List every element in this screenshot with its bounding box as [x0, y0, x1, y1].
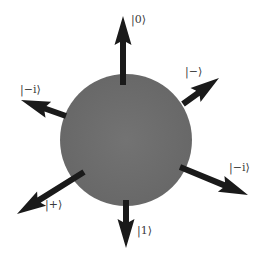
sphere-circle	[60, 74, 192, 206]
label-ket-plus: |+⟩	[45, 199, 62, 210]
label-ket-zero: |0⟩	[131, 14, 146, 25]
arrow-minus-i-l	[21, 100, 67, 119]
label-ket-minus-i-left: |−i⟩	[20, 84, 41, 95]
label-ket-one: |1⟩	[137, 225, 152, 236]
diagram-canvas	[0, 0, 264, 267]
arrow-one	[118, 200, 135, 248]
label-ket-minus: |−⟩	[185, 66, 202, 77]
label-ket-minus-i-right: |−i⟩	[229, 162, 250, 173]
bloch-sphere-diagram: |0⟩ |−⟩ |−i⟩ |−i⟩ |+⟩ |1⟩	[0, 0, 264, 267]
arrow-minus	[181, 78, 219, 106]
